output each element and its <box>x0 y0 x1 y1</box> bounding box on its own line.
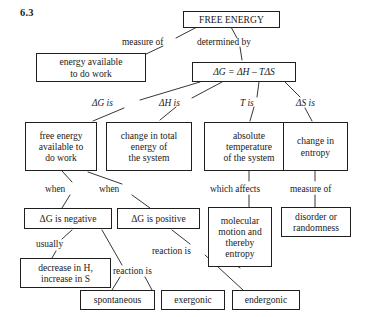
edge-label-measure-of-top: measure of <box>122 37 163 47</box>
node-free-energy-available-work-label: free energy available to do work <box>39 130 83 163</box>
node-free-energy-label: FREE ENERGY <box>199 14 264 25</box>
edge-label-delta-h-is: ΔH is <box>159 98 180 108</box>
edge-label-delta-g-is: ΔG is <box>92 98 113 108</box>
node-change-entropy-label: change in entropy <box>297 135 334 157</box>
node-endergonic[interactable]: endergonic <box>232 290 300 310</box>
edge-label-reaction-is-left: reaction is <box>113 266 152 276</box>
node-change-total-energy-label: change in total energy of the system <box>121 130 177 163</box>
edge-label-which-affects: which affects <box>210 184 260 194</box>
node-delta-g-negative-label: ΔG is negative <box>40 213 97 224</box>
node-decrease-h-increase-s-label: decrease in H, increase in S <box>38 262 93 284</box>
edge-label-measure-of-right: measure of <box>290 184 331 194</box>
node-gibbs-equation-label: ΔG = ΔH – TΔS <box>213 66 275 77</box>
node-decrease-h-increase-s[interactable]: decrease in H, increase in S <box>20 258 111 288</box>
edge-label-when-right: when <box>99 184 119 194</box>
figure-number: 6.3 <box>20 7 34 18</box>
node-disorder-randomness-label: disorder or randomness <box>293 211 339 233</box>
node-molecular-motion-label: molecular motion and thereby entropy <box>218 215 261 260</box>
node-free-energy[interactable]: FREE ENERGY <box>183 11 280 28</box>
node-change-total-energy[interactable]: change in total energy of the system <box>106 122 192 171</box>
node-delta-g-negative[interactable]: ΔG is negative <box>24 208 112 229</box>
node-exergonic[interactable]: exergonic <box>161 290 225 310</box>
node-spontaneous[interactable]: spontaneous <box>80 290 155 310</box>
node-spontaneous-label: spontaneous <box>94 294 141 305</box>
node-endergonic-label: endergonic <box>245 294 287 305</box>
edge-label-determined-by: determined by <box>197 37 251 47</box>
node-molecular-motion[interactable]: molecular motion and thereby entropy <box>208 207 272 267</box>
edge-label-usually: usually <box>36 239 63 249</box>
edge-label-reaction-is-right: reaction is <box>152 246 191 256</box>
edge-label-when-left: when <box>45 184 65 194</box>
node-disorder-randomness[interactable]: disorder or randomness <box>281 207 351 237</box>
edge-label-delta-s-is: ΔS is <box>296 98 315 108</box>
node-gibbs-equation[interactable]: ΔG = ΔH – TΔS <box>192 62 296 82</box>
node-delta-g-positive[interactable]: ΔG is positive <box>117 208 200 229</box>
node-energy-available[interactable]: energy available to do work <box>36 53 146 82</box>
node-exergonic-label: exergonic <box>174 294 212 305</box>
node-change-entropy[interactable]: change in entropy <box>283 122 348 171</box>
node-absolute-temperature[interactable]: absolute temperature of the system <box>204 122 294 171</box>
edge-label-t-is: T is <box>240 98 254 108</box>
node-absolute-temperature-label: absolute temperature of the system <box>223 130 274 163</box>
node-delta-g-positive-label: ΔG is positive <box>131 213 186 224</box>
node-free-energy-available-work[interactable]: free energy available to do work <box>25 122 97 171</box>
node-energy-available-label: energy available to do work <box>60 56 123 78</box>
concept-map-canvas: 6.3 <box>0 0 366 317</box>
